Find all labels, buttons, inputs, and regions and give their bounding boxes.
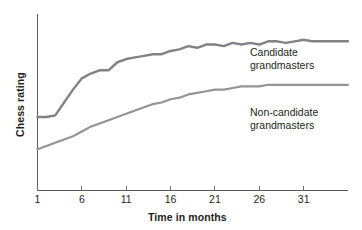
chess-rating-line-chart: 161116212631 Time in months Chess rating… — [0, 0, 362, 230]
x-tick-label-16: 16 — [156, 193, 186, 205]
series-label-candidate: Candidate grandmasters — [250, 46, 314, 72]
x-axis-ticks — [38, 186, 304, 191]
x-axis-title: Time in months — [148, 211, 227, 223]
x-tick-label-11: 11 — [111, 193, 141, 205]
y-axis-title: Chess rating — [14, 72, 26, 137]
series-label-non-candidate-line1: Non-candidate — [250, 106, 318, 119]
series-label-candidate-line1: Candidate — [250, 46, 314, 59]
x-tick-label-1: 1 — [23, 193, 53, 205]
x-tick-label-31: 31 — [289, 193, 319, 205]
series-label-candidate-line2: grandmasters — [250, 59, 314, 72]
x-tick-label-21: 21 — [200, 193, 230, 205]
series-label-non-candidate: Non-candidate grandmasters — [250, 106, 318, 132]
x-tick-label-6: 6 — [67, 193, 97, 205]
x-tick-label-26: 26 — [244, 193, 274, 205]
series-label-non-candidate-line2: grandmasters — [250, 119, 318, 132]
